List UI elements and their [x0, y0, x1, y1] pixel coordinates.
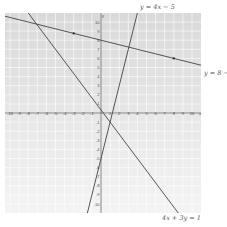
- y-tick-label: -10: [94, 202, 101, 207]
- marked-point: [173, 57, 175, 59]
- label-y-8-quarter-x: y = 8 − ¼: [203, 69, 227, 77]
- x-tick-label: 10: [190, 111, 195, 116]
- label-y-4x-5: y = 4x − 5: [139, 3, 175, 11]
- y-tick-label: 10: [95, 20, 100, 25]
- x-tick-label: -10: [7, 111, 14, 116]
- x-axis-label: x: [198, 111, 202, 116]
- label-4x-3y-1: 4x + 3y = 1: [161, 214, 201, 222]
- coordinate-plane-chart: -10-9-8-7-6-5-4-3-2-112345678910-10-9-8-…: [0, 0, 227, 227]
- marked-point: [73, 32, 75, 34]
